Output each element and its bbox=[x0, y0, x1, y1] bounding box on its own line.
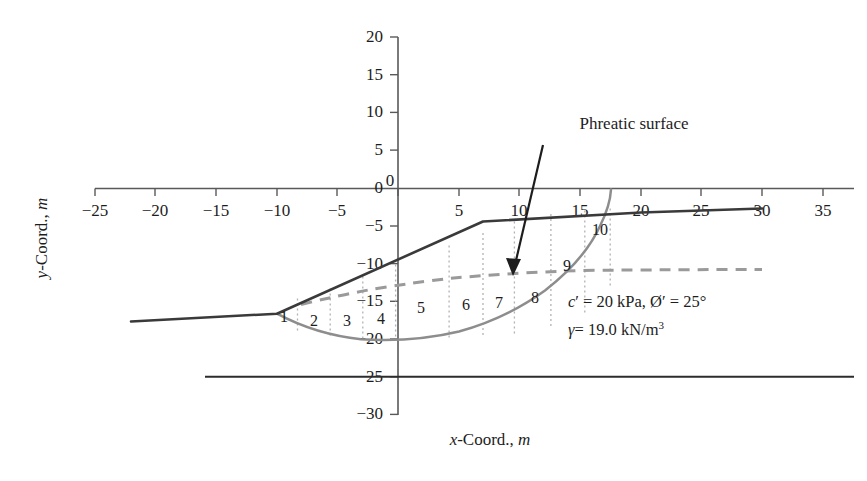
x-tick-label-5: 5 bbox=[455, 201, 464, 220]
y-axis-title: y-Coord., m bbox=[32, 198, 51, 281]
chart-canvas: −25 −20 −15 −10 −5 0 5 10 15 20 25 30 35 bbox=[0, 0, 867, 481]
x-tick-label--5: −5 bbox=[328, 201, 346, 220]
x-axis-title: x-Coord., m bbox=[449, 430, 531, 449]
y-tick-label-5: 5 bbox=[375, 140, 384, 159]
y-axis-title-symbol: y bbox=[32, 270, 51, 280]
y-tick-label--5: −5 bbox=[365, 216, 383, 235]
slice-label-5: 5 bbox=[417, 299, 425, 316]
slice-label-4: 4 bbox=[377, 310, 385, 327]
x-tick-label--20: −20 bbox=[142, 201, 169, 220]
y-tick-label--10: −10 bbox=[356, 254, 383, 273]
y-axis-title-text: -Coord., bbox=[32, 210, 51, 271]
soil-strength-params: c′ = 20 kPa, Ø′ = 25° bbox=[568, 292, 706, 311]
figure-background bbox=[0, 0, 867, 481]
slice-label-2: 2 bbox=[310, 312, 318, 329]
y-tick-label--30: −30 bbox=[356, 404, 383, 423]
slice-label-3: 3 bbox=[343, 312, 351, 329]
y-axis-title-unit: m bbox=[32, 198, 51, 210]
x-tick-label-0: 0 bbox=[386, 171, 395, 190]
y-tick-label-0: 0 bbox=[375, 178, 384, 197]
x-tick-label-20: 20 bbox=[633, 201, 650, 220]
x-axis-title-text: -Coord., bbox=[457, 430, 518, 449]
y-tick-label-15: 15 bbox=[366, 65, 383, 84]
cohesion-value: ′ = 20 kPa, Ø′ = 25° bbox=[575, 292, 706, 311]
slice-label-6: 6 bbox=[462, 296, 470, 313]
slice-label-7: 7 bbox=[495, 294, 503, 311]
y-tick-label-20: 20 bbox=[366, 27, 383, 46]
slope-stability-figure: −25 −20 −15 −10 −5 0 5 10 15 20 25 30 35 bbox=[0, 0, 867, 481]
slice-label-1: 1 bbox=[280, 308, 288, 325]
y-tick-label--15: −15 bbox=[356, 291, 383, 310]
y-tick-label-10: 10 bbox=[366, 102, 383, 121]
x-axis-title-unit: m bbox=[518, 430, 530, 449]
slice-label-9: 9 bbox=[563, 257, 571, 274]
gamma-value: = 19.0 kN/m bbox=[575, 320, 659, 339]
x-tick-label-10: 10 bbox=[511, 201, 528, 220]
gamma-exponent: 3 bbox=[659, 319, 665, 331]
x-tick-label--15: −15 bbox=[203, 201, 230, 220]
slice-label-10: 10 bbox=[592, 221, 608, 238]
x-tick-label--25: −25 bbox=[82, 201, 109, 220]
slice-label-8: 8 bbox=[531, 289, 539, 306]
soil-unit-weight: γ= 19.0 kN/m3 bbox=[568, 319, 665, 339]
x-tick-label--10: −10 bbox=[264, 201, 291, 220]
phreatic-callout-label: Phreatic surface bbox=[579, 114, 688, 133]
x-tick-label-30: 30 bbox=[754, 201, 771, 220]
x-tick-label-35: 35 bbox=[815, 201, 832, 220]
